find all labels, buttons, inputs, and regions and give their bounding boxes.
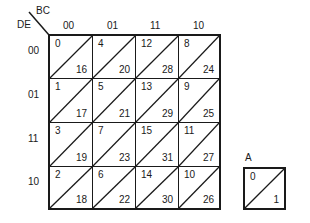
row-variable-label: DE	[17, 20, 31, 30]
cell-top-number: 4	[98, 39, 104, 49]
cell-top-number: 10	[184, 170, 195, 180]
kmap-cell: 5 21	[93, 79, 136, 123]
kmap-cell: 8 24	[179, 36, 219, 79]
cell-bottom-number: 24	[203, 65, 214, 75]
variable-a-box: 0 1	[243, 167, 286, 210]
cell-top-number: 7	[98, 126, 104, 136]
kmap-cell: 7 23	[93, 123, 136, 167]
col-header-01: 01	[107, 21, 118, 31]
kmap-cell: 9 25	[179, 79, 219, 123]
kmap-cell: 12 28	[136, 36, 179, 79]
cell-bottom-number: 21	[119, 109, 130, 119]
cell-top-number: 8	[184, 39, 190, 49]
cell-bottom-number: 23	[119, 153, 130, 163]
row-header-00: 00	[28, 46, 39, 56]
kmap-cell: 13 29	[136, 79, 179, 123]
col-header-00: 00	[63, 21, 74, 31]
a-variable-label: A	[245, 153, 252, 163]
kmap-cell: 15 31	[136, 123, 179, 167]
cell-bottom-number: 30	[162, 195, 173, 205]
cell-top-number: 0	[55, 39, 61, 49]
cell-top-number: 15	[141, 126, 152, 136]
cell-bottom-number: 17	[76, 109, 87, 119]
kmap-cell: 3 19	[50, 123, 93, 167]
col-variable-label: BC	[36, 6, 50, 16]
cell-top-number: 5	[98, 82, 104, 92]
karnaugh-map: 0 16 4 20 12 28 8 24 1 17 5 21 13 29 9 2…	[48, 34, 221, 210]
cell-bottom-number: 20	[119, 65, 130, 75]
col-header-10: 10	[193, 21, 204, 31]
kmap-cell: 11 27	[179, 123, 219, 167]
kmap-cell: 6 22	[93, 167, 136, 208]
col-header-11: 11	[150, 21, 160, 31]
cell-top-number: 11	[184, 126, 194, 136]
row-header-11: 11	[28, 134, 38, 144]
cell-top-number: 1	[55, 82, 61, 92]
a-bottom-number: 1	[273, 195, 279, 205]
cell-top-number: 3	[55, 126, 61, 136]
cell-top-number: 9	[184, 82, 190, 92]
cell-top-number: 14	[141, 170, 152, 180]
cell-bottom-number: 18	[76, 195, 87, 205]
cell-bottom-number: 31	[162, 153, 173, 163]
cell-top-number: 13	[141, 82, 152, 92]
kmap-cell: 4 20	[93, 36, 136, 79]
row-header-10: 10	[28, 177, 39, 187]
cell-top-number: 12	[141, 39, 152, 49]
cell-bottom-number: 28	[162, 65, 173, 75]
cell-bottom-number: 22	[119, 195, 130, 205]
kmap-cell: 2 18	[50, 167, 93, 208]
cell-bottom-number: 16	[76, 65, 87, 75]
cell-bottom-number: 19	[76, 153, 87, 163]
cell-top-number: 2	[55, 170, 61, 180]
row-header-01: 01	[28, 90, 39, 100]
cell-bottom-number: 25	[203, 109, 214, 119]
cell-bottom-number: 29	[162, 109, 173, 119]
kmap-cell: 14 30	[136, 167, 179, 208]
kmap-cell: 10 26	[179, 167, 219, 208]
a-top-number: 0	[250, 172, 256, 182]
kmap-cell: 1 17	[50, 79, 93, 123]
cell-bottom-number: 26	[203, 195, 214, 205]
cell-bottom-number: 27	[203, 153, 214, 163]
kmap-cell: 0 16	[50, 36, 93, 79]
cell-top-number: 6	[98, 170, 104, 180]
